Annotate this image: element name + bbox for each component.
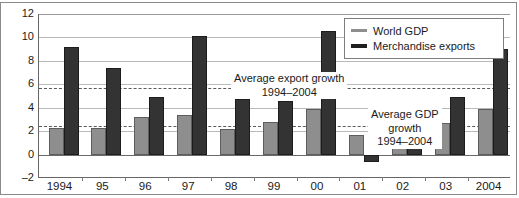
x-tick-label-98: 98 (210, 180, 253, 193)
y-tick-label: –2 (0, 172, 34, 183)
bar-world-gdp-97 (177, 115, 192, 155)
y-tick-label: 4 (0, 102, 34, 113)
bar-world-gdp-00 (306, 109, 321, 155)
x-tick-label-00: 00 (296, 180, 339, 193)
x-axis: 1994 95 96 97 98 99 00 01 02 03 2004 (38, 180, 510, 194)
bar-merchandise-exports-03 (450, 97, 465, 154)
y-tick-label: 8 (0, 55, 34, 66)
annotation-export-line2: 1994–2004 (234, 86, 344, 100)
x-tick-label-03: 03 (424, 180, 467, 193)
bar-merchandise-exports-97 (192, 36, 207, 154)
legend-label-world-gdp: World GDP (373, 25, 428, 37)
annotation-gdp-line2: growth (371, 122, 439, 136)
annotation-gdp-line1: Average GDP (371, 108, 439, 122)
bar-world-gdp-96 (134, 117, 149, 155)
x-tick-label-1994: 1994 (38, 180, 81, 193)
legend-item-world-gdp: World GDP (351, 23, 497, 38)
bar-merchandise-exports-95 (106, 68, 121, 155)
bar-world-gdp-01 (349, 135, 364, 155)
y-tick-label: 12 (0, 8, 34, 19)
annotation-average-export-growth: Average export growth 1994–2004 (231, 72, 347, 99)
legend-swatch-merchandise-exports-icon (351, 44, 367, 48)
bar-merchandise-exports-1994 (64, 47, 79, 155)
chart-legend: World GDP Merchandise exports (344, 18, 504, 59)
bar-merchandise-exports-96 (149, 97, 164, 154)
bar-merchandise-exports-01 (364, 155, 379, 162)
y-tick-label: 2 (0, 125, 34, 136)
annotation-gdp-line3: 1994–2004 (371, 135, 439, 149)
annotation-export-line1: Average export growth (234, 72, 344, 86)
bar-world-gdp-98 (220, 129, 235, 155)
legend-swatch-world-gdp-icon (351, 29, 367, 32)
legend-item-merchandise-exports: Merchandise exports (351, 38, 497, 53)
y-tick-label: 10 (0, 31, 34, 42)
bar-world-gdp-99 (263, 122, 278, 155)
legend-label-merchandise-exports: Merchandise exports (373, 40, 475, 52)
y-tick-label: 0 (0, 149, 34, 160)
bar-world-gdp-2004 (478, 109, 493, 155)
bar-merchandise-exports-2004 (493, 49, 508, 155)
x-tick-label-01: 01 (338, 180, 381, 193)
bar-world-gdp-95 (91, 128, 106, 155)
annotation-average-gdp-growth: Average GDP growth 1994–2004 (368, 108, 442, 149)
x-tick-label-95: 95 (81, 180, 124, 193)
y-tick-label: 6 (0, 78, 34, 89)
y-axis: 12 10 8 6 4 2 0 –2 (0, 14, 34, 178)
x-tick-label-96: 96 (124, 180, 167, 193)
x-tick-label-2004: 2004 (467, 180, 510, 193)
bar-merchandise-exports-98 (235, 99, 250, 154)
bar-world-gdp-1994 (49, 128, 64, 155)
bar-merchandise-exports-99 (278, 101, 293, 155)
x-tick-label-99: 99 (253, 180, 296, 193)
x-tick-label-97: 97 (167, 180, 210, 193)
x-tick-label-02: 02 (381, 180, 424, 193)
bar-chart-figure: 12 10 8 6 4 2 0 –2 (0, 0, 519, 198)
